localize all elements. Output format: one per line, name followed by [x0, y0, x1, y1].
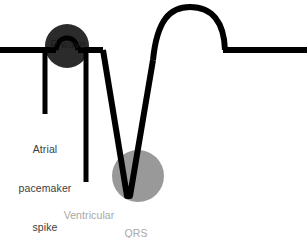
label-p-wave-line1: P wave	[28, 38, 108, 51]
label-atrial-line1: Atrial	[8, 143, 82, 156]
label-qrs-line1: QRS	[104, 227, 168, 238]
ecg-diagram: P wave Atrial pacemaker spike Ventricula…	[0, 0, 307, 238]
label-p-wave: P wave	[28, 12, 108, 77]
label-qrs-complex: QRS complex	[104, 201, 168, 238]
t-wave-hump	[153, 7, 225, 60]
